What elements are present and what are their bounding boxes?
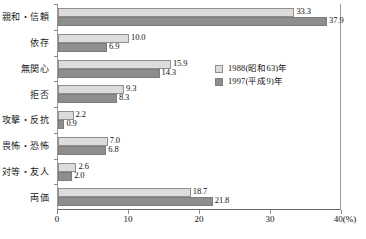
x-axis-tick-label: 40(%) xyxy=(334,214,357,224)
bar-value-label: 14.3 xyxy=(162,68,176,77)
bar-value-label: 18.7 xyxy=(193,187,207,196)
bar-group: 10.06.9 xyxy=(58,30,340,56)
bar-value-label: 6.8 xyxy=(108,145,118,154)
bar-1988 xyxy=(58,60,171,69)
bar-value-label: 21.8 xyxy=(215,196,229,205)
bar-group: 9.38.3 xyxy=(58,81,340,107)
bar-value-label: 2.0 xyxy=(74,171,84,180)
bar-1997 xyxy=(58,172,72,181)
category-tick xyxy=(54,81,58,82)
bar-1997 xyxy=(58,17,327,26)
x-axis: 010203040(%) xyxy=(57,210,341,230)
bar-1988 xyxy=(58,188,191,197)
category-label: 対等・友人 xyxy=(2,159,49,185)
x-axis-tick-label: 0 xyxy=(55,214,60,224)
category-tick xyxy=(54,107,58,108)
plot-area: 33.337.910.06.915.914.39.38.32.20.97.06.… xyxy=(57,4,341,210)
category-tick xyxy=(54,159,58,160)
bar-value-label: 6.9 xyxy=(109,42,119,51)
legend-label-1997: 1997(平成9)年 xyxy=(228,75,283,88)
category-tick xyxy=(54,30,58,31)
bar-group: 2.62.0 xyxy=(58,159,340,185)
category-label: 依存 xyxy=(30,30,49,56)
bar-1997 xyxy=(58,94,117,103)
bar-value-label: 8.3 xyxy=(119,93,129,102)
bar-value-label: 0.9 xyxy=(66,119,76,128)
bar-1997 xyxy=(58,146,106,155)
legend-item-1988: 1988(昭和63)年 xyxy=(215,62,287,75)
bar-1997 xyxy=(58,120,64,129)
category-tick xyxy=(54,133,58,134)
category-label: 拒否 xyxy=(30,81,49,107)
bar-value-label: 10.0 xyxy=(131,33,145,42)
bar-1997 xyxy=(58,69,160,78)
bar-1997 xyxy=(58,197,213,206)
x-axis-tick-label: 30 xyxy=(266,214,275,224)
bar-value-label: 2.2 xyxy=(76,110,86,119)
x-axis-tick-label: 20 xyxy=(195,214,204,224)
bar-group: 15.914.3 xyxy=(58,56,340,82)
category-label: 畏怖・恐怖 xyxy=(2,133,49,159)
bar-value-label: 33.3 xyxy=(296,7,310,16)
bar-group: 33.337.9 xyxy=(58,4,340,30)
bar-chart: 親和・信頼依存無関心拒否攻撃・反抗畏怖・恐怖対等・友人両価 33.337.910… xyxy=(0,0,366,239)
bar-1988 xyxy=(58,8,294,17)
category-label: 両価 xyxy=(30,184,49,210)
bar-group: 18.721.8 xyxy=(58,184,340,210)
category-label: 攻撃・反抗 xyxy=(2,107,49,133)
category-label: 無関心 xyxy=(21,56,49,82)
bar-1988 xyxy=(58,85,124,94)
category-tick xyxy=(54,4,58,5)
bar-value-label: 37.9 xyxy=(329,16,343,25)
legend-label-1988: 1988(昭和63)年 xyxy=(228,62,287,75)
bar-group: 7.06.8 xyxy=(58,133,340,159)
legend-swatch-icon-1988 xyxy=(215,65,223,73)
category-tick xyxy=(54,56,58,57)
legend-item-1997: 1997(平成9)年 xyxy=(215,75,287,88)
x-axis-tick-label: 10 xyxy=(124,214,133,224)
category-axis-labels: 親和・信頼依存無関心拒否攻撃・反抗畏怖・恐怖対等・友人両価 xyxy=(0,4,53,210)
bar-1997 xyxy=(58,43,107,52)
chart-legend: 1988(昭和63)年 1997(平成9)年 xyxy=(215,62,287,88)
legend-swatch-icon-1997 xyxy=(215,78,223,86)
category-label: 親和・信頼 xyxy=(2,4,49,30)
category-tick xyxy=(54,184,58,185)
bar-group: 2.20.9 xyxy=(58,107,340,133)
bar-1988 xyxy=(58,137,108,146)
